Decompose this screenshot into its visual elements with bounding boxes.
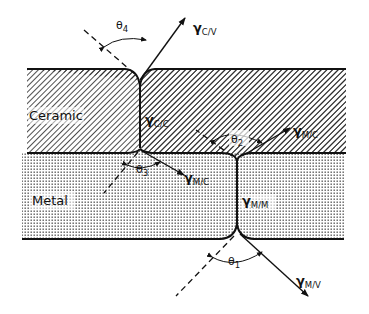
dashed-reference-line <box>176 236 234 296</box>
grain-boundary-diagram: θ4 γC/V θ3 γM/C γC/C θ2 γM/C γM/M θ1 γM/… <box>0 0 369 314</box>
ceramic-label: Ceramic <box>29 108 83 123</box>
gamma-mv-label: γM/V <box>296 273 321 290</box>
theta4-arc <box>104 39 146 47</box>
metal-label: Metal <box>32 193 68 208</box>
theta1-label: θ1 <box>228 255 240 270</box>
bottom-junction <box>176 234 308 296</box>
gamma-cv-label: γC/V <box>193 20 217 37</box>
theta4-label: θ4 <box>116 19 128 34</box>
